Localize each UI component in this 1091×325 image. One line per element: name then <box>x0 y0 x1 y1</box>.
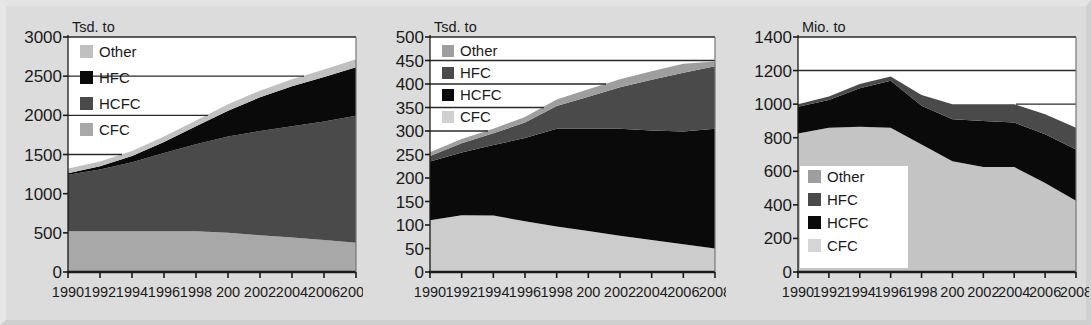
legend-swatch-cfc <box>808 239 821 252</box>
x-tick-label: 2008 <box>1060 284 1089 300</box>
y-tick-label: 450 <box>396 52 424 71</box>
x-tick-label: 1992 <box>84 284 116 300</box>
x-tick-label: 2008 <box>699 284 726 300</box>
y-tick-label: 1400 <box>754 28 792 47</box>
y-tick-label: 0 <box>415 263 424 282</box>
x-tick-label: 1994 <box>116 284 148 300</box>
x-tick-label: 1994 <box>844 284 876 300</box>
x-tick-label: 2008 <box>340 284 363 300</box>
legend-label-hcfc: HCFC <box>460 86 502 103</box>
legend-swatch-hfc <box>442 67 454 79</box>
y-tick-label: 350 <box>396 99 424 118</box>
y-tick-label: 500 <box>34 224 62 243</box>
y-tick-label: 0 <box>53 263 62 282</box>
y-tick-label: 1500 <box>24 146 62 165</box>
y-tick-label: 2500 <box>24 67 62 86</box>
y-axis-unit-label: Tsd. to <box>434 19 477 35</box>
legend-label-cfc: CFC <box>99 121 130 138</box>
y-tick-label: 1000 <box>754 95 792 114</box>
x-tick-label: 2006 <box>1029 284 1061 300</box>
x-tick-label: 1990 <box>52 284 84 300</box>
chart-panels: 0500100015002000250030001990199219941996… <box>0 0 1091 325</box>
y-tick-label: 800 <box>764 129 792 148</box>
legend-swatch-hfc <box>80 71 93 84</box>
x-tick-label: 1996 <box>509 284 541 300</box>
chart-svg-center: 0501001502002503003504004505001990199219… <box>363 0 726 325</box>
y-tick-label: 2000 <box>24 106 62 125</box>
legend-label-other: Other <box>99 43 137 60</box>
legend-swatch-hcfc <box>80 97 93 110</box>
chart-panel-right: 0200400600800100012001400199019921994199… <box>726 0 1089 325</box>
y-tick-label: 600 <box>764 162 792 181</box>
x-tick-label: 2004 <box>276 284 308 300</box>
chart-panel-center: 0501001502002503003504004505001990199219… <box>363 0 726 325</box>
x-tick-label: 2006 <box>667 284 699 300</box>
legend-swatch-cfc <box>442 111 454 123</box>
y-tick-label: 300 <box>396 122 424 141</box>
x-tick-label: 2002 <box>244 284 276 300</box>
y-tick-label: 50 <box>405 240 424 259</box>
legend-label-other: Other <box>827 168 865 185</box>
legend-label-hfc: HFC <box>827 191 858 208</box>
y-tick-label: 200 <box>764 229 792 248</box>
y-axis-unit-label: Tsd. to <box>72 19 115 35</box>
x-tick-label: 2004 <box>998 284 1030 300</box>
x-tick-label: 1998 <box>905 284 937 300</box>
legend-label-cfc: CFC <box>827 237 858 254</box>
y-tick-label: 1000 <box>24 185 62 204</box>
legend-label-hfc: HFC <box>99 69 130 86</box>
legend-swatch-hcfc <box>808 216 821 229</box>
y-tick-label: 250 <box>396 146 424 165</box>
legend-label-hcfc: HCFC <box>99 95 141 112</box>
x-tick-label: 2006 <box>308 284 340 300</box>
y-axis-ticks: 0200400600800100012001400 <box>754 28 798 282</box>
legend-label-other: Other <box>460 42 498 59</box>
chart-panel-left: 0500100015002000250030001990199219941996… <box>0 0 363 325</box>
y-tick-label: 0 <box>783 263 792 282</box>
x-tick-label: 1996 <box>875 284 907 300</box>
y-axis-ticks: 050010001500200025003000 <box>24 28 68 282</box>
y-tick-label: 500 <box>396 28 424 47</box>
y-axis-unit-label: Mio. to <box>802 19 846 35</box>
x-tick-label: 1994 <box>477 284 509 300</box>
x-axis-ticks: 199019921994199619982002002200420062008 <box>52 272 363 300</box>
legend-swatch-cfc <box>80 123 93 136</box>
legend-swatch-other <box>808 170 821 183</box>
x-tick-label: 200 <box>216 284 240 300</box>
figure-container: 0500100015002000250030001990199219941996… <box>0 0 1091 325</box>
legend-swatch-other <box>80 45 93 58</box>
y-tick-label: 100 <box>396 216 424 235</box>
x-tick-label: 1992 <box>813 284 845 300</box>
x-tick-label: 1998 <box>541 284 573 300</box>
y-tick-label: 400 <box>764 196 792 215</box>
x-tick-label: 1990 <box>782 284 814 300</box>
x-tick-label: 1996 <box>148 284 180 300</box>
legend-label-cfc: CFC <box>460 108 491 125</box>
x-tick-label: 1992 <box>446 284 478 300</box>
y-tick-label: 3000 <box>24 28 62 47</box>
legend-label-hcfc: HCFC <box>827 214 869 231</box>
x-tick-label: 1990 <box>414 284 446 300</box>
x-tick-label: 2004 <box>636 284 668 300</box>
chart-svg-right: 0200400600800100012001400199019921994199… <box>726 0 1089 325</box>
legend-label-hfc: HFC <box>460 64 491 81</box>
y-tick-label: 150 <box>396 193 424 212</box>
x-tick-label: 1998 <box>180 284 212 300</box>
y-tick-label: 400 <box>396 75 424 94</box>
y-axis-ticks: 050100150200250300350400450500 <box>396 28 430 282</box>
x-tick-label: 2002 <box>604 284 636 300</box>
y-tick-label: 200 <box>396 169 424 188</box>
x-axis-ticks: 199019921994199619982002002200420062008 <box>414 272 726 300</box>
legend: OtherHFCHCFCCFC <box>800 166 908 268</box>
x-axis-ticks: 199019921994199619982002002200420062008 <box>782 272 1089 300</box>
legend-swatch-hfc <box>808 193 821 206</box>
chart-svg-left: 0500100015002000250030001990199219941996… <box>0 0 363 325</box>
x-tick-label: 2002 <box>967 284 999 300</box>
y-tick-label: 1200 <box>754 62 792 81</box>
legend-swatch-other <box>442 45 454 57</box>
x-tick-label: 200 <box>940 284 964 300</box>
x-tick-label: 200 <box>576 284 600 300</box>
legend-swatch-hcfc <box>442 89 454 101</box>
